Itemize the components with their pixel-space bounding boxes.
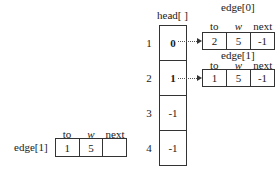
- edge0-title: edge[0]: [221, 2, 255, 13]
- edge0-headers: to w next: [202, 21, 275, 31]
- edge1-next: -1: [251, 70, 274, 86]
- head-index-3: 3: [144, 107, 154, 119]
- pointer-arrow-line-1: [178, 41, 197, 42]
- head-array-title: head[ ]: [157, 10, 188, 21]
- header-next: next: [251, 21, 275, 31]
- edge1-partial-label: edge[1]: [14, 142, 48, 153]
- edge0-w: 5: [227, 33, 251, 49]
- edge1-partial-next: [103, 139, 126, 156]
- edge1-to: 1: [203, 70, 227, 86]
- head-array: 0 1 -1 -1: [159, 25, 187, 166]
- edge1-partial-to: 1: [56, 139, 80, 156]
- header-to: to: [202, 21, 226, 31]
- edge0-to: 2: [203, 33, 227, 49]
- head-index-2: 2: [144, 72, 154, 84]
- edge0-record: 2 5 -1: [202, 32, 275, 50]
- header-w: w: [226, 21, 250, 31]
- edge1-partial-record: 1 5: [55, 138, 127, 157]
- head-cell-3: -1: [160, 96, 186, 131]
- head-cell-4: -1: [160, 131, 186, 165]
- head-index-1: 1: [144, 37, 154, 49]
- head-cell-1: 0: [160, 26, 186, 61]
- edge0-next: -1: [251, 33, 274, 49]
- edge1-record: 1 5 -1: [202, 69, 275, 87]
- head-index-4: 4: [144, 142, 154, 154]
- edge1-w: 5: [227, 70, 251, 86]
- pointer-arrow-line-2: [178, 78, 197, 79]
- edge1-partial-w: 5: [80, 139, 104, 156]
